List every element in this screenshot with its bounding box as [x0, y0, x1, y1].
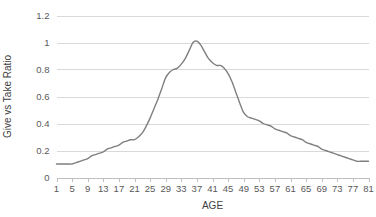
- x-tick-label-57: 57: [270, 183, 281, 194]
- x-tick-label-1: 1: [54, 183, 59, 194]
- x-tick-label-61: 61: [285, 183, 296, 194]
- x-axis-title: AGE: [202, 200, 223, 211]
- x-tick-label-73: 73: [332, 183, 343, 194]
- y-tick-label-1.2: 1.2: [36, 10, 49, 21]
- chart-container: 00.20.40.60.811.2 1591317212529333741454…: [0, 0, 376, 217]
- x-tick-label-21: 21: [129, 183, 140, 194]
- y-tick-label-0: 0: [44, 172, 49, 183]
- x-tick-label-69: 69: [316, 183, 327, 194]
- x-tick-label-49: 49: [238, 183, 249, 194]
- x-tick-label-41: 41: [207, 183, 218, 194]
- x-tick-label-45: 45: [223, 183, 234, 194]
- x-axis-tick-labels: 159131721252933374145495357616569737781: [54, 183, 374, 194]
- x-tick-label-29: 29: [160, 183, 171, 194]
- y-tick-label-0.6: 0.6: [36, 91, 49, 102]
- x-tick-label-17: 17: [114, 183, 125, 194]
- line-chart: 00.20.40.60.811.2 1591317212529333741454…: [0, 0, 376, 217]
- x-tick-label-5: 5: [69, 183, 74, 194]
- x-tick-label-37: 37: [192, 183, 203, 194]
- x-tick-label-25: 25: [145, 183, 156, 194]
- x-tick-label-77: 77: [348, 183, 359, 194]
- x-tick-label-65: 65: [301, 183, 312, 194]
- x-tick-label-9: 9: [85, 183, 90, 194]
- y-tick-label-1: 1: [44, 37, 49, 48]
- x-tick-label-33: 33: [176, 183, 187, 194]
- x-tick-label-13: 13: [98, 183, 109, 194]
- y-tick-label-0.2: 0.2: [36, 145, 49, 156]
- x-tick-label-81: 81: [363, 183, 374, 194]
- y-tick-label-0.8: 0.8: [36, 64, 49, 75]
- x-tick-label-53: 53: [254, 183, 265, 194]
- y-tick-label-0.4: 0.4: [36, 118, 49, 129]
- y-axis-title: Give vs Take Ratio: [2, 54, 13, 138]
